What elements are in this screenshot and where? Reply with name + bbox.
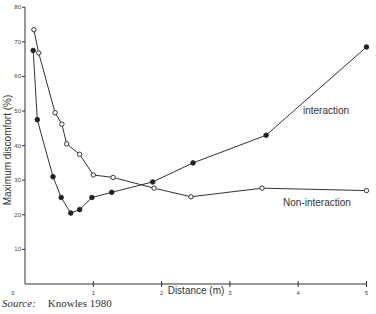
open-marker: [111, 175, 115, 179]
filled-marker: [35, 117, 40, 122]
open-marker: [91, 173, 95, 177]
open-marker: [189, 195, 193, 199]
x-tick-label: 3: [228, 290, 232, 296]
filled-marker: [150, 180, 155, 185]
open-marker: [32, 27, 36, 31]
x-tick-label: 2: [160, 290, 164, 296]
series-label-interaction: interaction: [303, 105, 349, 116]
y-tick-label: 70: [14, 39, 21, 45]
filled-marker: [109, 190, 114, 195]
filled-marker: [51, 174, 56, 179]
line-chart: 1020304050607080012345Distance (m)Maximu…: [0, 0, 376, 296]
open-marker: [60, 122, 64, 126]
filled-marker: [264, 133, 269, 138]
series-line-interaction: [33, 47, 366, 213]
y-tick-label: 20: [14, 212, 21, 218]
y-tick-label: 50: [14, 108, 21, 114]
open-marker: [364, 188, 368, 192]
filled-marker: [59, 195, 64, 200]
filled-marker: [191, 161, 196, 166]
y-tick-label: 80: [14, 4, 21, 10]
y-axis-label: Maximum discomfort (%): [2, 95, 13, 206]
source-label: Source:: [2, 297, 36, 309]
y-tick-label: 40: [14, 143, 21, 149]
x-tick-label: 0: [11, 290, 15, 296]
open-marker: [260, 186, 264, 190]
y-tick-label: 30: [14, 177, 21, 183]
x-tick-label: 4: [297, 290, 301, 296]
x-tick-label: 5: [365, 290, 369, 296]
x-tick-label: 1: [92, 290, 96, 296]
filled-marker: [68, 211, 73, 216]
y-tick-label: 60: [14, 73, 21, 79]
source-text: Knowles 1980: [48, 297, 112, 309]
open-marker: [36, 51, 40, 55]
filled-marker: [77, 207, 82, 212]
open-marker: [53, 111, 57, 115]
filled-marker: [90, 195, 95, 200]
y-tick-label: 10: [14, 246, 21, 252]
x-axis-label: Distance (m): [168, 285, 225, 296]
filled-marker: [31, 48, 36, 53]
source-note: Source:Knowles 1980: [2, 297, 112, 309]
filled-marker: [364, 45, 369, 50]
open-marker: [64, 142, 68, 146]
series-label-non-interaction: Non-interaction: [283, 197, 351, 208]
open-marker: [152, 186, 156, 190]
open-marker: [77, 152, 81, 156]
